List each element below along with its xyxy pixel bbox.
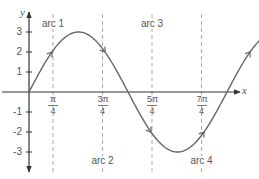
arc-3-label: arc 3 xyxy=(140,19,164,29)
x-tick-numerator: π xyxy=(48,95,58,106)
x-tick-denominator: 4 xyxy=(144,106,160,116)
x-tick-numerator: 3π xyxy=(98,95,108,106)
x-tick-label-3pi-4: 3π 4 xyxy=(95,95,111,116)
y-tick-label: -3 xyxy=(8,147,22,157)
y-tick-label: 2 xyxy=(8,47,22,57)
arc-1-label: arc 1 xyxy=(41,19,65,29)
x-axis-label: x xyxy=(242,85,247,95)
x-tick-label-5pi-4: 5π 4 xyxy=(144,95,160,116)
x-tick-denominator: 4 xyxy=(194,106,210,116)
y-tick-label: 3 xyxy=(8,27,22,37)
y-tick-label: 1 xyxy=(8,67,22,77)
y-tick-label: -1 xyxy=(8,107,22,117)
dashed-reference-lines xyxy=(53,14,202,175)
x-tick-denominator: 4 xyxy=(95,106,111,116)
arc-2-label: arc 2 xyxy=(90,156,114,166)
x-tick-numerator: 5π xyxy=(147,95,157,106)
x-tick-label-7pi-4: 7π 4 xyxy=(194,95,210,116)
x-tick-numerator: 7π xyxy=(197,95,207,106)
x-tick-label-pi-4: π 4 xyxy=(45,95,61,116)
arc-4-label: arc 4 xyxy=(189,156,213,166)
y-axis-label: y xyxy=(20,7,25,17)
y-tick-label: -2 xyxy=(8,127,22,137)
x-tick-denominator: 4 xyxy=(45,106,61,116)
sine-chart xyxy=(0,0,259,179)
